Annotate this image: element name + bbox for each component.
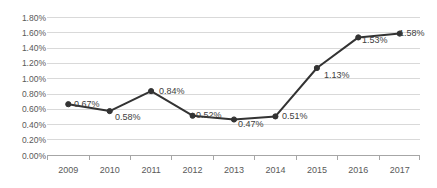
x-axis-label-2009: 2009 [58, 166, 78, 175]
x-axis-label-2015: 2015 [307, 166, 327, 175]
y-axis-label-1-20: 1.20% [2, 59, 46, 68]
data-point-marker [107, 109, 112, 114]
x-axis-label-2010: 2010 [100, 166, 120, 175]
y-axis-label-0-80: 0.80% [2, 90, 46, 99]
data-point-marker [314, 65, 319, 70]
data-point-marker [356, 35, 361, 40]
data-label-2014: 0.51% [282, 112, 308, 121]
chart-plot-area [0, 0, 437, 188]
data-label-2016: 1.53% [362, 36, 388, 45]
data-point-marker [149, 89, 154, 94]
data-point-marker [190, 113, 195, 118]
y-axis-label-1-60: 1.60% [2, 29, 46, 38]
data-point-marker [66, 102, 71, 107]
y-axis-label-0-20: 0.20% [2, 136, 46, 145]
data-label-2015: 1.13% [324, 71, 350, 80]
y-axis-label-1-40: 1.40% [2, 44, 46, 53]
x-axis-label-2016: 2016 [348, 166, 368, 175]
data-point-marker [231, 117, 236, 122]
x-axis-label-2017: 2017 [390, 166, 410, 175]
data-label-2010: 0.58% [115, 113, 141, 122]
series-line-path [68, 34, 399, 120]
x-axis [47, 156, 420, 160]
line-chart: 1.80% 1.60% 1.40% 1.20% 1.00% 0.80% 0.60… [0, 0, 437, 188]
x-axis-label-2011: 2011 [141, 166, 160, 175]
x-axis-label-2013: 2013 [224, 166, 244, 175]
x-axis-label-2012: 2012 [183, 166, 203, 175]
data-label-2017: 1.58% [399, 29, 425, 38]
y-axis-label-1-80: 1.80% [2, 13, 46, 22]
y-axis-label-0-60: 0.60% [2, 105, 46, 114]
x-axis-label-2014: 2014 [265, 166, 285, 175]
data-point-marker [273, 114, 278, 119]
data-label-2012: 0.52% [196, 111, 222, 120]
data-label-2009: 0.67% [74, 100, 100, 109]
y-axis-label-1-00: 1.00% [2, 74, 46, 83]
data-label-2011: 0.84% [159, 87, 185, 96]
y-axis-label-0-40: 0.40% [2, 120, 46, 129]
data-label-2013: 0.47% [238, 120, 264, 129]
y-axis-label-0-00: 0.00% [2, 151, 46, 160]
